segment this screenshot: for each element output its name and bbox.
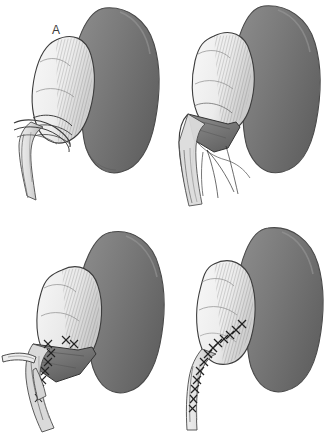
reconstructed-pelvis — [197, 261, 256, 365]
panel-a-illustration — [0, 0, 165, 217]
panel-b: B — [164, 0, 329, 216]
ureter — [19, 122, 43, 200]
panel-label-a: A — [52, 24, 61, 36]
suture-needle — [2, 353, 36, 363]
panel-a: A — [0, 0, 165, 216]
traction-suture-threads — [197, 142, 250, 198]
panel-c-illustration — [0, 216, 165, 433]
panel-b-illustration — [164, 0, 329, 217]
panel-c: C — [0, 216, 165, 432]
spatulated-ureter — [179, 114, 240, 206]
panel-d: D — [164, 216, 329, 432]
panel-d-illustration — [164, 216, 329, 433]
figure-sheet: A — [0, 0, 329, 433]
